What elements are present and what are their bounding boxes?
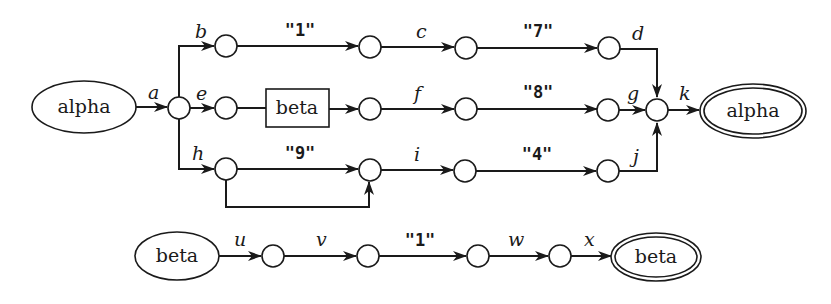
edge-label-x: x (584, 228, 595, 250)
beta-node-3 (467, 245, 489, 267)
edge-label-d: d (632, 22, 644, 44)
start-node-beta-label: beta (156, 244, 198, 266)
edge-label-i: i (414, 143, 420, 165)
node-bot-2 (359, 159, 381, 181)
node-bot-3 (454, 160, 476, 182)
edge-label-f: f (412, 82, 424, 104)
node-mid-2 (359, 98, 381, 120)
node-bot-1 (215, 158, 237, 180)
subnet-box-label: beta (276, 96, 318, 118)
node-mid-3 (455, 98, 477, 120)
start-node-alpha-label: alpha (57, 95, 110, 117)
edge-label-a: a (148, 81, 159, 103)
network-alpha: alpha a b e h "1" c "7" d beta f (32, 20, 806, 207)
string-label-1: "1" (285, 20, 316, 40)
beta-string-label-1: "1" (405, 230, 436, 250)
string-label-9: "9" (285, 143, 316, 163)
edge-label-k: k (679, 82, 691, 104)
string-label-8: "8" (523, 82, 554, 102)
beta-node-1 (262, 245, 284, 267)
node-top-2 (359, 36, 381, 58)
beta-node-2 (357, 245, 379, 267)
beta-node-4 (549, 245, 571, 267)
diagram-canvas: alpha a b e h "1" c "7" d beta f (0, 0, 831, 304)
edge-label-u: u (234, 228, 246, 250)
end-node-beta-label: beta (635, 245, 677, 267)
edge-label-g: g (627, 82, 639, 104)
edge-label-e: e (196, 82, 207, 104)
node-top-1 (215, 35, 237, 57)
node-top-4 (598, 37, 620, 59)
edge-label-v: v (316, 228, 327, 250)
node-mid-1 (215, 97, 237, 119)
edge-skip-loop (226, 180, 369, 207)
node-bot-4 (597, 160, 619, 182)
edge-label-b: b (195, 20, 207, 42)
join-node (646, 99, 668, 121)
node-top-3 (455, 37, 477, 59)
edge-label-c: c (416, 20, 427, 42)
edge-label-w: w (508, 228, 524, 250)
string-label-7: "7" (523, 21, 554, 41)
edge-label-j: j (629, 145, 639, 167)
branch-node (168, 97, 190, 119)
network-beta: beta u v "1" w x beta (135, 228, 701, 281)
edge-label-h: h (192, 142, 204, 164)
node-mid-4 (597, 99, 619, 121)
string-label-4: "4" (522, 144, 553, 164)
end-node-alpha-label: alpha (726, 99, 779, 121)
